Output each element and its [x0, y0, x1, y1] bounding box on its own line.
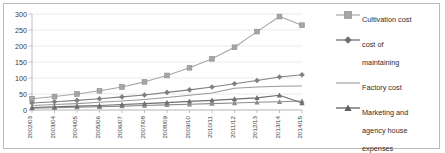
x-axis-tick-label: 2012/13	[251, 115, 258, 138]
square-marker-icon	[336, 11, 360, 19]
data-point-marker	[142, 79, 147, 84]
legend-item-cultivation-cost[interactable]: Cultivation cost	[336, 8, 442, 26]
y-axis-tick-label: 150	[15, 58, 27, 67]
diamond-marker-icon	[336, 36, 360, 44]
data-point-marker	[75, 92, 80, 97]
y-axis-tick-label: 100	[15, 74, 27, 83]
x-axis-tick-label: 2011/12	[229, 115, 236, 137]
x-axis-tick-label: 2008/09	[161, 115, 168, 138]
data-point-marker	[142, 92, 148, 98]
y-axis-tick-label: 200	[15, 42, 27, 51]
data-point-marker	[300, 23, 305, 28]
data-point-marker	[277, 74, 283, 80]
chart-legend: Cultivation cost cost of maintaining Fac…	[336, 8, 442, 153]
data-point-marker	[52, 99, 58, 105]
legend-item-marketing-and-agency-house-expenses[interactable]: Marketing and agency house expenses	[336, 101, 442, 153]
data-point-marker	[74, 98, 80, 104]
data-point-marker	[299, 72, 305, 78]
data-point-marker	[120, 85, 125, 90]
series-0	[30, 14, 305, 101]
legend-label: Factory cost	[362, 83, 402, 92]
x-axis-tick-label: 2005/06	[94, 115, 101, 138]
x-axis-tick-label: 2009/10	[184, 115, 191, 138]
x-axis-tick-label: 2002/03	[26, 115, 33, 138]
x-axis-tick-label: 2010/11	[206, 115, 213, 137]
line-marker-icon	[336, 79, 360, 87]
triangle-marker-icon	[336, 104, 360, 112]
y-axis-tick-label: 250	[15, 26, 27, 35]
legend-label: cost of maintaining	[362, 40, 399, 67]
legend-label: Cultivation cost	[362, 15, 411, 24]
x-axis-tick-label: 2007/08	[139, 115, 146, 138]
x-axis-tick-label: 2003/04	[49, 115, 56, 138]
data-point-marker	[119, 94, 125, 100]
x-axis-tick-label: 2013/14	[274, 115, 281, 138]
legend-label: Marketing and agency house expenses	[362, 108, 408, 153]
x-axis-tick-label: 2004/05	[71, 115, 78, 138]
chart-screenshot: 0501001502002503002002/032003/042004/052…	[0, 0, 445, 153]
y-axis-tick-label: 300	[15, 10, 27, 19]
data-point-marker	[97, 88, 102, 93]
data-point-marker	[255, 29, 260, 34]
legend-item-factory-cost[interactable]: Factory cost	[336, 76, 442, 94]
legend-item-cost-of-maintaining[interactable]: cost of maintaining	[336, 33, 442, 69]
data-point-marker	[187, 65, 192, 70]
data-point-marker	[254, 78, 260, 84]
data-point-marker	[232, 45, 237, 50]
y-axis-tick-label: 50	[19, 90, 27, 99]
data-point-marker	[209, 84, 215, 90]
data-point-marker	[164, 90, 170, 96]
data-point-marker	[165, 73, 170, 78]
y-axis-tick-label: 0	[23, 106, 27, 115]
x-axis-tick-label: 2006/07	[116, 115, 123, 138]
data-point-marker	[187, 87, 193, 93]
data-point-marker	[97, 96, 103, 102]
data-point-marker	[232, 81, 238, 87]
series-line	[32, 75, 302, 103]
x-axis-tick-label: 2014/15	[296, 115, 303, 138]
data-point-marker	[210, 56, 215, 61]
data-point-marker	[52, 94, 57, 99]
data-point-marker	[277, 14, 282, 19]
